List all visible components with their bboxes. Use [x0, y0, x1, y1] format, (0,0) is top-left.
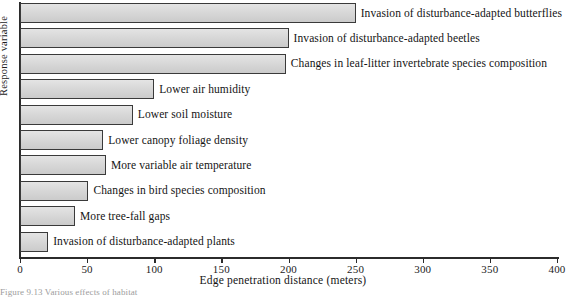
bar-label: Invasion of disturbance-adapted beetles	[294, 32, 480, 45]
y-axis-title: Response variable	[0, 0, 9, 96]
bar	[20, 105, 133, 125]
bar-row: More tree-fall gaps	[20, 206, 170, 226]
x-axis-title: Edge penetration distance (meters)	[0, 274, 566, 286]
bar-label: Lower air humidity	[159, 83, 250, 96]
bar	[20, 54, 286, 74]
bar-row: Lower canopy foliage density	[20, 130, 248, 150]
bar-label: Changes in bird species composition	[93, 184, 265, 197]
bar-label: Invasion of disturbance-adapted plants	[53, 235, 235, 248]
bar-label: More tree-fall gaps	[80, 210, 170, 223]
bar	[20, 79, 154, 99]
bar-row: Lower air humidity	[20, 79, 250, 99]
bar-row: Invasion of disturbance-adapted plants	[20, 232, 235, 252]
bar	[20, 155, 106, 175]
bar	[20, 28, 289, 48]
bar-label: Lower canopy foliage density	[108, 134, 248, 147]
bar-row: Invasion of disturbance-adapted beetles	[20, 28, 480, 48]
figure-caption: Figure 9.13 Various effects of habitat	[0, 287, 566, 297]
bar	[20, 232, 48, 252]
bar	[20, 181, 88, 201]
bar-row: Lower soil moisture	[20, 105, 232, 125]
bar-row: More variable air temperature	[20, 155, 251, 175]
bar-row: Invasion of disturbance-adapted butterfl…	[20, 3, 562, 23]
bar	[20, 206, 75, 226]
bar-label: Lower soil moisture	[138, 108, 233, 121]
bar-row: Changes in bird species composition	[20, 181, 266, 201]
bar-label: More variable air temperature	[111, 159, 252, 172]
bar-label: Invasion of disturbance-adapted butterfl…	[361, 7, 562, 20]
bar-row: Changes in leaf-litter invertebrate spec…	[20, 54, 547, 74]
bar	[20, 130, 103, 150]
bar-label: Changes in leaf-litter invertebrate spec…	[291, 57, 547, 70]
bar	[20, 3, 356, 23]
